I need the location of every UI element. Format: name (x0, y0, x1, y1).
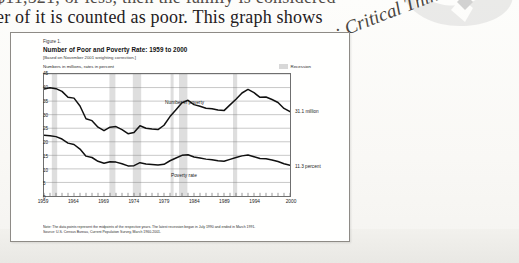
series-label-poverty-rate: Poverty rate (171, 173, 197, 178)
chart-legend: Recession (279, 64, 312, 69)
x-axis-tick-label: 1969 (98, 199, 109, 204)
recession-swatch-icon (279, 64, 288, 69)
figure-subtitle: [Based on November 2001 weighting correc… (43, 55, 341, 60)
end-value-number-in-poverty: 31.1 million (295, 109, 319, 114)
chart-canvas (44, 74, 290, 196)
gridlines (44, 74, 290, 182)
x-axis-tick-label: 1959 (38, 199, 49, 204)
axis-units-label: Numbers in millions, rates in percent (43, 64, 114, 69)
figure-number: Figure 1. (43, 39, 341, 45)
x-axis-tick-label: 1974 (128, 199, 139, 204)
x-axis-tick-label: 1994 (249, 199, 260, 204)
x-axis-tick-label: 1989 (219, 199, 230, 204)
x-axis-tick-label: 1984 (189, 199, 200, 204)
plot-area (43, 73, 291, 197)
x-axis-tick-label: 1964 (68, 199, 79, 204)
legend-label-recession: Recession (291, 64, 312, 69)
x-axis-tickmarks (44, 193, 290, 196)
line-poverty-rate (44, 135, 290, 166)
x-axis-tick-label: 1979 (159, 199, 170, 204)
figure-title: Number of Poor and Poverty Rate: 1959 to… (43, 46, 341, 53)
recession-bands (52, 74, 237, 196)
x-axis-tick-label: 2000 (286, 199, 297, 204)
series-label-number-in-poverty: Number in poverty (165, 100, 204, 105)
end-value-poverty-rate: 11.3 percent (295, 164, 321, 169)
line-number-in-poverty (44, 88, 290, 134)
figure-source-line: Source: U.S. Census Bureau, Current Popu… (43, 230, 335, 235)
figure-notes: Note: The data points represent the midp… (43, 225, 335, 236)
figure-panel: Figure 1. Number of Poor and Poverty Rat… (10, 32, 350, 242)
plot-wrapper: 051015202530354045 195919641969197419791… (19, 73, 341, 213)
body-text-line-2: er of it is counted as poor. This graph … (0, 7, 323, 28)
chart-header-row: Numbers in millions, rates in percent Re… (43, 64, 341, 72)
